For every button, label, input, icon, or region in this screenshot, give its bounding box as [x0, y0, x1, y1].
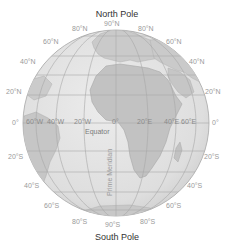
lat-label-left-40s: 40°S: [24, 182, 39, 189]
lat-label-right-40n: 40°N: [189, 58, 205, 65]
lat-label-right-60n: 60°N: [166, 38, 182, 45]
lat-label-right-20s: 20°S: [204, 153, 219, 160]
lon-label-60w: 60°W: [26, 118, 43, 125]
lat-label-left-60n: 60°N: [43, 38, 59, 45]
lon-label-20w: 20°W: [74, 118, 91, 125]
lat-label-right-60s: 60°S: [166, 202, 181, 209]
lon-label-0: 0°: [112, 118, 119, 125]
lat-label-right-80n: 80°N: [138, 25, 154, 32]
lon-label-60e: 60°E: [181, 118, 196, 125]
lon-label-40w: 40°W: [47, 118, 64, 125]
lat-label-left-20n: 20°N: [6, 88, 22, 95]
lat-label-90s: 90°S: [105, 221, 120, 228]
lat-label-left-20s: 20°S: [8, 153, 23, 160]
lon-label-40e: 40°E: [164, 118, 179, 125]
lat-label-90n: 90°N: [104, 20, 120, 27]
prime-meridian-label: Prime Meridian: [106, 149, 113, 196]
lat-label-left-60s: 60°S: [44, 202, 59, 209]
lat-label-right-80s: 80°S: [140, 218, 155, 225]
lon-label-20e: 20°E: [137, 118, 152, 125]
lat-label-left-0: 0°: [12, 119, 19, 126]
lat-label-right-40s: 40°S: [187, 182, 202, 189]
lat-label-left-80s: 80°S: [72, 218, 87, 225]
lat-label-right-20n: 20°N: [205, 88, 221, 95]
lat-label-left-80n: 80°N: [72, 25, 88, 32]
equator-label: Equator: [85, 128, 110, 135]
lat-label-right-0: 0°: [212, 119, 219, 126]
lat-label-left-40n: 40°N: [20, 58, 36, 65]
